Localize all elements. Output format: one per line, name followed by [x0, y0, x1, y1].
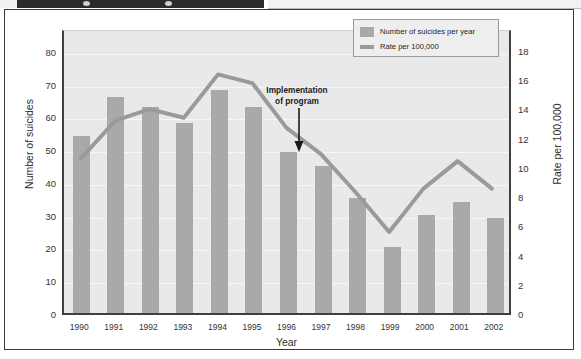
y-tick-left: 40	[16, 179, 56, 189]
tab-hole-icon	[165, 1, 172, 6]
y-tick-right: 10	[518, 164, 548, 174]
x-tick: 2002	[474, 322, 514, 332]
annotation-line-2: of program	[237, 96, 357, 107]
plot-inner	[64, 31, 509, 313]
line-series	[64, 31, 509, 313]
y-tick-right: 6	[518, 222, 548, 232]
dark-tab-strip	[17, 0, 264, 8]
y-tick-left: 80	[16, 48, 56, 58]
window-chrome-strip	[0, 0, 581, 9]
annotation-arrow-icon	[291, 108, 307, 154]
y-tick-right: 14	[518, 105, 548, 115]
legend-item-line: Rate per 100,000	[360, 40, 492, 53]
y-tick-left: 30	[16, 212, 56, 222]
y-tick-left: 10	[16, 277, 56, 287]
y-tick-left: 20	[16, 244, 56, 254]
chrome-left-edge	[0, 0, 17, 8]
chrome-right-edge	[268, 0, 581, 9]
figure-screenshot: Number of suicides Rate per 100,000 Year…	[0, 0, 581, 359]
y-tick-right: 18	[518, 47, 548, 57]
y-tick-right: 16	[518, 76, 548, 86]
x-axis-title: Year	[62, 336, 511, 348]
y-tick-left: 50	[16, 146, 56, 156]
legend-label-bars: Number of suicides per year	[380, 27, 475, 36]
plot-area	[62, 30, 511, 315]
legend-item-bars: Number of suicides per year	[360, 25, 492, 38]
figure-card: Number of suicides Rate per 100,000 Year…	[4, 9, 574, 350]
y-tick-left: 60	[16, 113, 56, 123]
y-tick-right: 0	[518, 310, 548, 320]
y-axis-right-title: Rate per 100,000	[551, 84, 563, 204]
tab-hole-icon	[83, 1, 90, 6]
legend-bar-swatch-icon	[360, 27, 374, 37]
y-tick-left: 70	[16, 81, 56, 91]
annotation-implementation: Implementation of program	[237, 85, 357, 107]
y-tick-right: 12	[518, 135, 548, 145]
legend-label-line: Rate per 100,000	[380, 42, 439, 51]
y-tick-right: 4	[518, 252, 548, 262]
y-tick-right: 8	[518, 193, 548, 203]
y-tick-right: 2	[518, 281, 548, 291]
annotation-line-1: Implementation	[237, 85, 357, 96]
legend-line-swatch-icon	[360, 45, 374, 49]
y-tick-left: 0	[16, 310, 56, 320]
legend: Number of suicides per year Rate per 100…	[353, 19, 499, 57]
